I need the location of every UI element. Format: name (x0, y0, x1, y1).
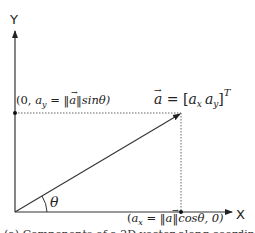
y-point-label: (0, ay = ‖a‖sinθ) → (16, 88, 110, 109)
figure-caption: (a) Components of a 2D vector along coor… (4, 228, 255, 233)
x-point-label: (ax = ‖a‖cosθ, 0) → (127, 206, 224, 227)
vector-arrow-accent: → (154, 85, 162, 95)
x-axis-label: X (236, 207, 245, 222)
vector-a (15, 114, 180, 212)
vector-components-diagram: Y X θ (0, ay = ‖a‖sinθ) → a = [axay]T → … (0, 0, 255, 233)
svg-text:(0, ay = ‖a‖sinθ): (0, ay = ‖a‖sinθ) (16, 93, 110, 109)
y-component-point (13, 111, 17, 115)
vector-label: a = [axay]T → (154, 85, 232, 109)
svg-text:a = [axay]T: a = [axay]T (154, 87, 232, 109)
angle-arc (42, 196, 47, 212)
y-axis-label: Y (9, 12, 18, 27)
vector-arrow-accent: → (172, 206, 179, 215)
vector-arrow-accent: → (71, 88, 78, 97)
angle-label: θ (50, 194, 59, 210)
